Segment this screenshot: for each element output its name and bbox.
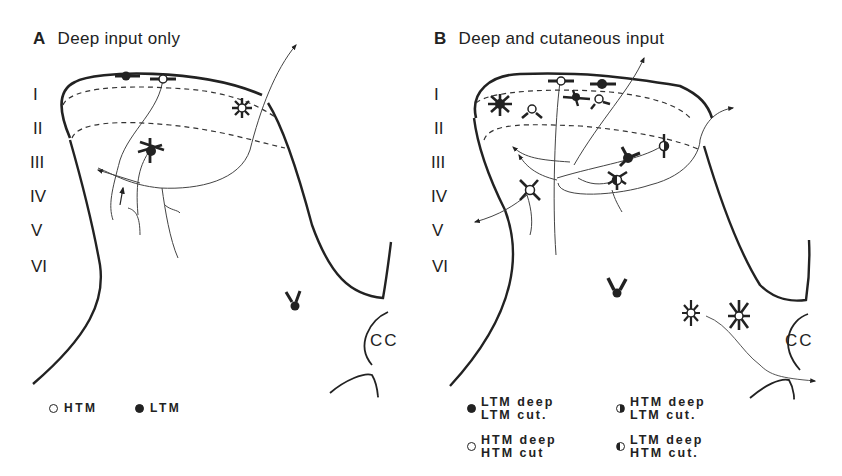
- panel-b-title: BDeep and cutaneous input: [434, 29, 664, 49]
- legend-line: HTM cut: [481, 447, 557, 460]
- legend-line: LTM cut.: [630, 409, 706, 422]
- panel-a-lamina-label: I: [33, 85, 38, 105]
- panel-a-central-canal-label: CC: [370, 331, 399, 351]
- ltm-neuron-b-deep: [608, 278, 626, 298]
- filled-circle-icon: [467, 404, 476, 413]
- panel-a-drawing: [33, 45, 391, 397]
- panel-b-lamina-label: V: [432, 221, 443, 241]
- legend-b-ltm-htm: LTM deep HTM cut.: [616, 434, 703, 460]
- legend-b-htm-htm: HTM deep HTM cut: [467, 434, 557, 460]
- panel-a-letter: A: [33, 29, 46, 48]
- panel-a-title: ADeep input only: [33, 29, 180, 49]
- htm-neuron-b-deep-b: [728, 300, 750, 330]
- legend-a-htm-label: HTM: [64, 401, 98, 415]
- legend-a-ltm: LTM: [135, 401, 181, 415]
- legend-line: HTM cut.: [630, 447, 703, 460]
- panel-a-lamina-label: II: [33, 119, 42, 139]
- legend-b-ltm-ltm: LTM deep LTM cut.: [467, 396, 554, 422]
- panel-b-letter: B: [434, 29, 447, 48]
- htm-neuron-b-lamina-iv: [520, 180, 540, 200]
- half-neuron-b-lamina-ii: [563, 90, 590, 106]
- htm-neuron-b-lamina-ii-b: [522, 105, 542, 118]
- panel-a-lamina-label: V: [31, 221, 42, 241]
- open-circle-icon: [49, 404, 58, 413]
- half-neuron-b-lamina-iv: [608, 172, 627, 190]
- panel-b-title-text: Deep and cutaneous input: [459, 29, 665, 48]
- htm-neuron-b-deep-a: [682, 300, 700, 326]
- panel-b-lamina-label: II: [434, 119, 443, 139]
- legend-line: LTM cut.: [481, 409, 554, 422]
- panel-a-title-text: Deep input only: [58, 29, 181, 48]
- htm-neuron-b-lamina-ii-c: [591, 95, 610, 109]
- panel-a-lamina-label: VI: [31, 257, 47, 277]
- panel-a-lamina-label: III: [30, 153, 44, 173]
- htm-neuron-lamina-ii: [232, 98, 252, 118]
- dorsal-horn-diagram: [0, 0, 842, 476]
- panel-a-lamina-label: IV: [30, 187, 46, 207]
- ltm-neuron-b-lamina-ii-a: [488, 94, 512, 116]
- ltm-neuron-deep: [286, 291, 300, 311]
- half-filled-right-circle-icon: [616, 404, 625, 413]
- open-circle-icon: [467, 442, 476, 451]
- ltm-neuron-lamina-iii: [138, 138, 164, 163]
- panel-b-lamina-label: III: [431, 153, 445, 173]
- legend-a-ltm-label: LTM: [150, 401, 181, 415]
- legend-b-htm-ltm: HTM deep LTM cut.: [616, 396, 706, 422]
- half-filled-left-circle-icon: [616, 442, 625, 451]
- panel-b-lamina-label: VI: [432, 257, 448, 277]
- panel-b-lamina-label: I: [434, 85, 439, 105]
- panel-b-drawing: [450, 58, 815, 399]
- legend-a-htm: HTM: [49, 401, 98, 415]
- htm-neuron-b-lamina-i-a: [548, 77, 574, 85]
- panel-b-lamina-label: IV: [431, 187, 447, 207]
- filled-circle-icon: [135, 404, 144, 413]
- panel-b-central-canal-label: CC: [785, 331, 814, 351]
- ltm-neuron-b-lamina-i: [590, 79, 616, 89]
